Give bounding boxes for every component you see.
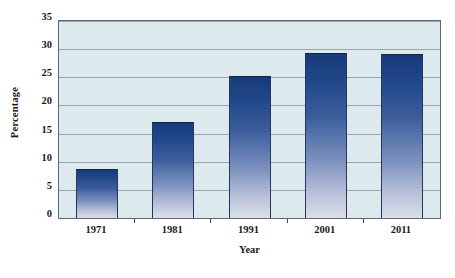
- bar-1991: [229, 76, 271, 218]
- x-axis-tick-mark: [363, 219, 364, 223]
- y-axis-tick-label: 20: [42, 95, 53, 106]
- x-axis-tick-label: 1971: [86, 224, 107, 235]
- bar-chart-figure: Percentage 05101520253035 19711981199120…: [0, 0, 455, 278]
- y-axis-tick-label: 15: [42, 123, 53, 134]
- x-axis-tick-mark: [134, 219, 135, 223]
- y-axis-tick-label: 0: [47, 208, 52, 219]
- x-axis-tick-label: 2011: [391, 224, 411, 235]
- bar-2011: [381, 54, 423, 218]
- x-axis-tick-label: 1981: [162, 224, 183, 235]
- y-axis-title-label: Percentage: [10, 87, 21, 138]
- y-axis-tick-label: 10: [42, 151, 53, 162]
- x-axis-tick-labels: 19711981199120012011: [58, 224, 441, 242]
- x-axis-title: Year: [58, 244, 441, 255]
- y-axis-tick-label: 35: [42, 11, 53, 22]
- y-axis-tick-labels: 05101520253035: [30, 16, 56, 218]
- y-axis-tick-label: 30: [42, 39, 53, 50]
- bars-group: [59, 21, 440, 218]
- bar-1981: [152, 122, 194, 218]
- x-axis-tick-mark: [210, 219, 211, 223]
- x-axis-tick-label: 2001: [314, 224, 335, 235]
- y-axis-tick-label: 5: [47, 179, 52, 190]
- y-axis-tick-label: 25: [42, 67, 53, 78]
- x-axis-tick-mark: [287, 219, 288, 223]
- bar-1971: [76, 169, 118, 218]
- x-axis-tick-label: 1991: [238, 224, 259, 235]
- plot-area: [58, 20, 441, 219]
- bar-2001: [305, 53, 347, 218]
- y-axis-title: Percentage: [0, 0, 30, 225]
